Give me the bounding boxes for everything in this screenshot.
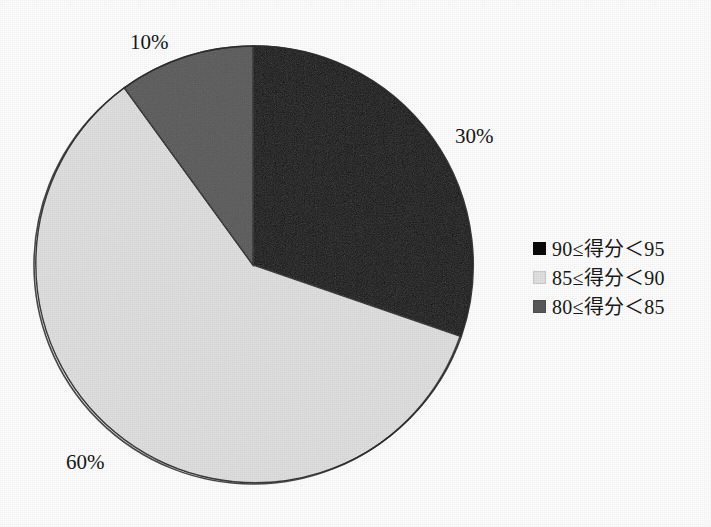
data-label-30-percent: 30% xyxy=(455,126,494,147)
legend-swatch-icon-85-90 xyxy=(533,271,546,284)
legend-item-85-90: 85≤得分＜90 xyxy=(533,263,665,292)
pie-chart: 30% 10% 60% 90≤得分＜95 85≤得分＜90 80≤得分＜85 xyxy=(0,0,711,527)
legend-label-85-90: 85≤得分＜90 xyxy=(552,268,665,288)
legend-label-80-85: 80≤得分＜85 xyxy=(552,297,665,317)
data-label-60-percent: 60% xyxy=(66,452,105,473)
chart-legend: 90≤得分＜95 85≤得分＜90 80≤得分＜85 xyxy=(533,234,665,321)
legend-item-90-95: 90≤得分＜95 xyxy=(533,234,665,263)
legend-swatch-icon-90-95 xyxy=(533,242,546,255)
legend-label-90-95: 90≤得分＜95 xyxy=(552,239,665,259)
legend-item-80-85: 80≤得分＜85 xyxy=(533,292,665,321)
data-label-10-percent: 10% xyxy=(130,32,169,53)
legend-swatch-icon-80-85 xyxy=(533,300,546,313)
